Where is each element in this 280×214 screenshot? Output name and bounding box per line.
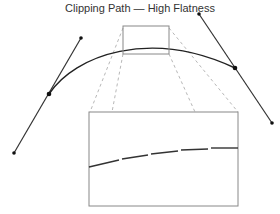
bezier-curve [49, 48, 235, 94]
zoom-guide-lines [90, 28, 238, 112]
clipping-path-diagram [0, 0, 280, 214]
zoom-target-rect [89, 112, 238, 206]
